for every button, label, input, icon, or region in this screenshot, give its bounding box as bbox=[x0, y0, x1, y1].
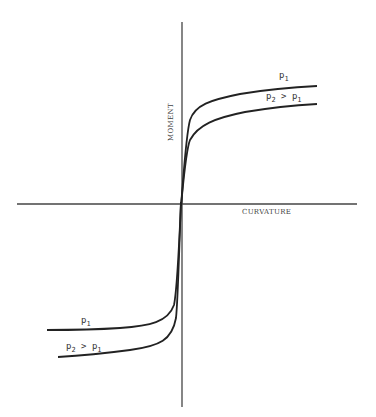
lower-p2-label: p2 > p1 bbox=[66, 341, 102, 354]
curvature-label: CURVATURE bbox=[242, 208, 291, 216]
moment-curvature-diagram bbox=[0, 0, 376, 417]
moment-label: MOMENT bbox=[167, 103, 175, 141]
upper-p1-label: p1 bbox=[279, 70, 289, 83]
upper-p2-label: p2 > p1 bbox=[266, 91, 302, 104]
lower-p1-label: p1 bbox=[81, 315, 91, 328]
curve-upper-p2 bbox=[181, 104, 317, 206]
curve-upper-p1 bbox=[181, 86, 317, 206]
curve-lower-p2 bbox=[58, 202, 181, 357]
curve-lower-p1 bbox=[47, 202, 181, 330]
